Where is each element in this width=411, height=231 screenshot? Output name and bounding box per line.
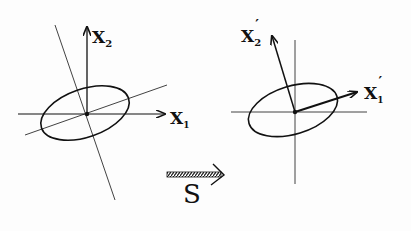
origin-point: [293, 110, 297, 114]
x1-label: X1: [170, 108, 189, 130]
diagram-canvas: X2 X1 S X2′ X1′: [0, 0, 411, 231]
x2-prime-label: X2′: [241, 17, 261, 48]
data-ellipse: [242, 74, 344, 147]
principal-axis-minor-line: [55, 25, 115, 200]
x2-prime-axis: [272, 36, 295, 112]
x1-prime-axis: [295, 92, 357, 112]
origin-point: [85, 112, 89, 116]
transform-arrow: S: [167, 164, 224, 209]
diagram-svg: X2 X1 S X2′ X1′: [0, 0, 411, 231]
transform-label: S: [183, 179, 201, 209]
hatched-arrow-shaft: [167, 172, 221, 177]
x2-label: X2: [92, 27, 112, 49]
left-panel: X2 X1: [18, 25, 189, 200]
x1-prime-label: X1′: [364, 74, 383, 105]
right-panel: X2′ X1′: [231, 17, 383, 184]
